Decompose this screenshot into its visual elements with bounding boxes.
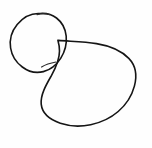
drawing-surface [0, 0, 152, 148]
sketch-canvas: Hand-drawn sketch of two overlapping ell… [0, 0, 152, 148]
